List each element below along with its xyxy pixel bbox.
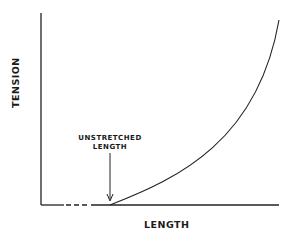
- annotation-line-1: UNSTRETCHED: [74, 134, 146, 143]
- x-axis-label: LENGTH: [144, 219, 190, 230]
- tension-curve: [110, 20, 279, 205]
- tension-length-diagram: [0, 0, 294, 241]
- unstretched-length-annotation: UNSTRETCHED LENGTH: [74, 134, 146, 152]
- annotation-line-2: LENGTH: [74, 143, 146, 152]
- y-axis-label: TENSION: [10, 57, 21, 108]
